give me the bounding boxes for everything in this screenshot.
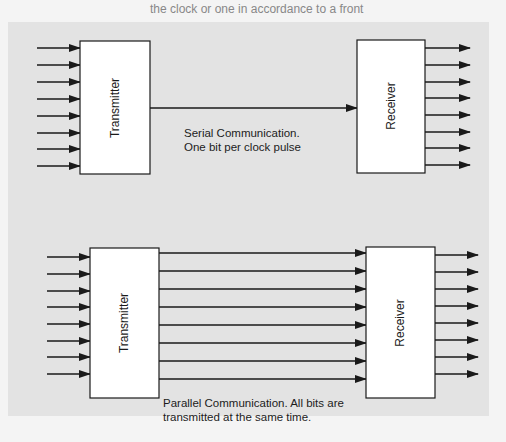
- parallel-transmitter-label: Transmitter: [117, 293, 131, 353]
- serial-caption-line1: Serial Communication.: [184, 126, 301, 140]
- parallel-caption-line1: Parallel Communication. All bits are: [163, 396, 344, 410]
- serial-inputs: [37, 48, 80, 166]
- parallel-caption: Parallel Communication. All bits are tra…: [163, 396, 344, 424]
- serial-caption-line2: One bit per clock pulse: [184, 140, 301, 154]
- parallel-receiver-label: Receiver: [393, 299, 407, 346]
- serial-transmitter-label: Transmitter: [108, 78, 122, 138]
- communication-diagram: Transmitter Receiver Transmitter Receive…: [0, 0, 506, 442]
- parallel-outputs: [435, 255, 478, 374]
- serial-caption: Serial Communication. One bit per clock …: [184, 126, 301, 154]
- parallel-inputs: [47, 257, 90, 374]
- serial-outputs: [425, 48, 470, 165]
- parallel-links: [159, 253, 366, 379]
- parallel-caption-line2: transmitted at the same time.: [163, 410, 344, 424]
- serial-receiver-label: Receiver: [384, 82, 398, 129]
